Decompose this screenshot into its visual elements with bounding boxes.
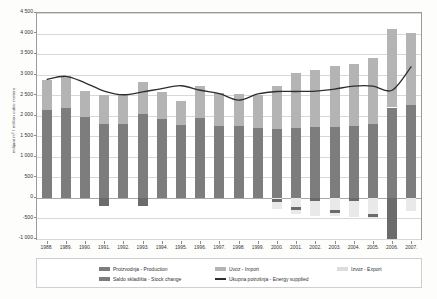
y-tick-label: 1 000 [20,153,33,158]
y-tick-label: 3 000 [20,71,33,76]
bar-segment-production [291,128,301,198]
bar-group [195,13,205,239]
bar-segment-import [138,82,148,114]
bar-segment-import [291,73,301,128]
x-tick-label: 2000. [271,245,283,250]
bar-segment-production [253,128,263,198]
bar-segment-import [176,101,186,126]
swatch-line-black-icon [215,278,226,280]
x-tick-label: 1992. [117,245,129,250]
x-tick-label: 2004. [348,245,360,250]
bar-group [80,13,90,239]
x-tick-mark [123,241,124,244]
bar-segment-import [214,93,224,126]
y-tick-label: -500 [23,215,33,220]
chart-container: milijuni m³ / million cubic meters 4 500… [0,0,437,299]
x-tick-mark [335,241,336,244]
bar-group [406,13,416,239]
x-tick-mark [315,241,316,244]
bar-segment-import [387,29,397,107]
bar-segment-stock-change [138,198,148,206]
x-tick-mark [392,241,393,244]
bar-segment-production [330,127,340,198]
bar-group [176,13,186,239]
x-tick-label: 2007. [405,245,417,250]
x-tick-label: 2003. [328,245,340,250]
bar-segment-production [310,127,320,198]
bar-segment-import [368,58,378,124]
y-tick-label: 4 500 [20,9,33,14]
legend-item[interactable]: Uvoz - Import [215,266,259,272]
legend-item[interactable]: Izvoz - Export [337,266,382,272]
bar-segment-production [387,108,397,198]
bar-segment-production [195,118,205,198]
legend-item[interactable]: Proizvodnja - Production [99,266,167,272]
x-tick-label: 1995. [175,245,187,250]
x-tick-mark [239,241,240,244]
x-tick-mark [411,241,412,244]
bar-segment-import [42,80,52,111]
bar-group [234,13,244,239]
x-tick-label: 1998. [232,245,244,250]
bar-segment-stock-change [330,210,340,213]
bar-group [42,13,52,239]
bar-segment-import [310,70,320,127]
bar-segment-import [406,33,416,106]
bar-segment-production [80,117,90,198]
x-tick-mark [85,241,86,244]
bar-segment-production [99,124,109,198]
x-tick-label: 1991. [98,245,110,250]
x-tick-label: 1994. [156,245,168,250]
bar-segment-production [138,114,148,198]
bar-segment-stock-change [99,198,109,206]
legend-item[interactable]: Ukupna potrošnja - Energy supplied [215,276,309,282]
x-tick-label: 1993. [136,245,148,250]
y-tick-label: -1 000 [19,235,33,240]
x-tick-label: 2002. [309,245,321,250]
bar-segment-stock-change [272,199,282,202]
x-tick-label: 1996. [194,245,206,250]
bar-segment-import [234,94,244,126]
bar-group [118,13,128,239]
bar-group [310,13,320,239]
x-tick-mark [219,241,220,244]
x-tick-label: 1990. [79,245,91,250]
plot-area [36,12,422,240]
legend-item[interactable]: Saldo skladišta - Stock change [99,276,181,282]
bar-segment-import [99,95,109,124]
legend-label: Ukupna potrošnja - Energy supplied [229,276,309,282]
bar-group [349,13,359,239]
y-axis-tick-labels: 4 5004 0003 5003 0002 5002 0001 5001 000… [0,0,36,240]
swatch-pale-gray-icon [337,267,348,271]
bar-segment-import [118,95,128,124]
bar-group [330,13,340,239]
bar-segment-production [157,119,167,198]
x-tick-mark [277,241,278,244]
bar-group [61,13,71,239]
x-tick-mark [143,241,144,244]
bar-group [214,13,224,239]
bar-segment-production [61,108,71,198]
bar-segment-import [349,64,359,126]
x-tick-mark [162,241,163,244]
x-tick-mark [181,241,182,244]
bar-segment-stock-change [368,214,378,217]
x-tick-mark [66,241,67,244]
bar-group [138,13,148,239]
bar-segment-import [195,86,205,118]
bar-segment-import [61,76,71,108]
x-tick-label: 2006. [386,245,398,250]
bar-segment-import [330,66,340,126]
bar-group [157,13,167,239]
bar-segment-stock-change [310,198,320,201]
bar-group [368,13,378,239]
y-tick-label: 2 000 [20,112,33,117]
x-tick-label: 1989. [60,245,72,250]
bar-segment-import [157,92,167,118]
x-tick-mark [200,241,201,244]
bar-group [272,13,282,239]
bar-segment-export [330,198,340,216]
legend-label: Proizvodnja - Production [113,266,167,272]
bar-segment-production [368,124,378,198]
bar-segment-production [214,126,224,198]
